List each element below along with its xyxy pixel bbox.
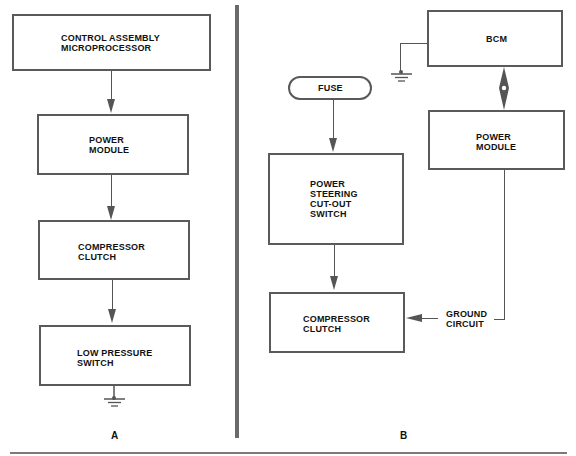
label-control-assembly-microprocessor: CONTROL ASSEMBLY MICROPROCESSOR <box>61 33 160 53</box>
panel-divider <box>235 5 239 438</box>
ground-icon <box>100 386 130 410</box>
arrow-down-icon <box>107 99 115 113</box>
box-compressor-clutch-b: COMPRESSOR CLUTCH <box>269 292 405 353</box>
label-ground-circuit: GROUND CIRCUIT <box>446 309 487 329</box>
caption-b: B <box>400 430 407 441</box>
arrow-left-icon <box>406 314 422 322</box>
fuse: FUSE <box>288 76 372 100</box>
label-compressor-clutch-b: COMPRESSOR CLUTCH <box>303 314 370 334</box>
bottom-rule <box>10 452 567 454</box>
box-compressor-clutch-a: COMPRESSOR CLUTCH <box>38 220 190 280</box>
bcm-ground-wire-h <box>400 43 427 44</box>
label-compressor-clutch-a: COMPRESSOR CLUTCH <box>78 242 145 262</box>
label-low-pressure-switch: LOW PRESSURE SWITCH <box>77 348 152 368</box>
box-low-pressure-switch: LOW PRESSURE SWITCH <box>39 325 191 386</box>
label-fuse: FUSE <box>318 83 343 93</box>
arrow-down-icon <box>108 309 116 323</box>
arrow-down-icon <box>329 138 337 152</box>
box-power-module-a: POWER MODULE <box>37 114 189 175</box>
box-power-steering-cut-out-switch: POWER STEERING CUT-OUT SWITCH <box>268 153 404 245</box>
double-arrow-icon <box>497 67 511 110</box>
ground-icon <box>387 66 417 86</box>
caption-a: A <box>111 430 118 441</box>
ground-circuit-wire-h <box>494 319 505 320</box>
ground-circuit-wire-v <box>504 170 505 320</box>
connector-ps-clutch <box>334 245 335 280</box>
box-bcm: BCM <box>427 10 563 67</box>
connector-a2-a3 <box>111 175 112 210</box>
ground-circuit-arrow-line <box>420 318 438 319</box>
arrow-down-icon <box>107 206 115 220</box>
label-power-steering-cut-out-switch: POWER STEERING CUT-OUT SWITCH <box>310 179 358 219</box>
label-bcm: BCM <box>486 34 507 44</box>
box-power-module-b: POWER MODULE <box>428 110 565 170</box>
arrow-down-icon <box>330 276 338 290</box>
label-power-module-a: POWER MODULE <box>89 135 129 155</box>
box-control-assembly-microprocessor: CONTROL ASSEMBLY MICROPROCESSOR <box>12 14 211 71</box>
connector-fuse-ps <box>333 100 334 142</box>
label-power-module-b: POWER MODULE <box>476 132 516 152</box>
